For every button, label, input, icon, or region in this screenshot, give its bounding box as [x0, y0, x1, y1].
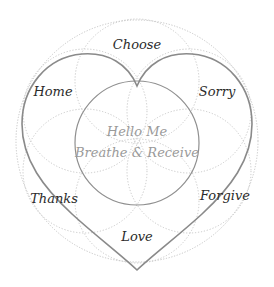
label-forgive: Forgive [199, 188, 250, 203]
label-choose: Choose [113, 37, 162, 52]
center-line-2: Breathe & Receive [74, 145, 199, 160]
label-thanks: Thanks [30, 191, 78, 206]
label-home: Home [32, 84, 72, 99]
center-line-1: Hello Me [106, 124, 168, 139]
label-love: Love [120, 229, 153, 244]
heart-flower-diagram: Choose Home Sorry Thanks Forgive Love He… [0, 0, 274, 287]
label-sorry: Sorry [199, 84, 236, 99]
petal-circles [23, 19, 251, 263]
outer-circle [16, 20, 258, 262]
inner-circle [75, 81, 199, 205]
